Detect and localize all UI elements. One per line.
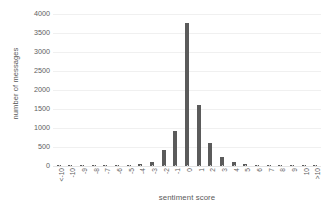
y-axis-tick-label: 500 [38, 143, 50, 150]
x-tick-slot: 2 [205, 167, 217, 193]
x-axis-tickmark [59, 165, 60, 167]
x-tick-slot: -8 [88, 167, 100, 193]
y-axis-tick-label: 1000 [34, 124, 50, 131]
bar[interactable] [173, 131, 177, 166]
bar-slot [228, 14, 240, 166]
bar-slot [135, 14, 147, 166]
x-tick-slot: -9 [76, 167, 88, 193]
x-tick-slot: 4 [228, 167, 240, 193]
bar[interactable] [162, 150, 166, 166]
x-tick-slot: >10 [309, 167, 321, 193]
bar-slot [158, 14, 170, 166]
bar-slot [170, 14, 182, 166]
bar-slot [123, 14, 135, 166]
bar-slot [88, 14, 100, 166]
x-tick-slot: -7 [100, 167, 112, 193]
y-axis-tick-label: 3000 [34, 48, 50, 55]
bar-slot [309, 14, 321, 166]
bar[interactable] [208, 143, 212, 166]
x-tick-slot: 10 [298, 167, 310, 193]
x-axis-tickmark [140, 165, 141, 167]
x-axis-tickmark [117, 165, 118, 167]
y-axis-tick-label: 1500 [34, 105, 50, 112]
x-tick-slot: 0 [181, 167, 193, 193]
x-tick-slot: -2 [158, 167, 170, 193]
bar-slot [240, 14, 252, 166]
bar-chart: number of messages 050010001500200025003… [0, 0, 327, 209]
x-axis-tickmark [105, 165, 106, 167]
y-axis-tick-label: 3500 [34, 29, 50, 36]
bar-slot [146, 14, 158, 166]
x-tick-slot: 8 [274, 167, 286, 193]
bar-slot [181, 14, 193, 166]
x-tick-slot: -6 [111, 167, 123, 193]
x-axis-tickmark [94, 165, 95, 167]
x-axis-tickmark [315, 165, 316, 167]
x-tick-slot: -3 [146, 167, 158, 193]
x-axis-tick-labels: <-10-10-9-8-7-6-5-4-3-2-1012345678910>10 [53, 167, 321, 193]
bar[interactable] [197, 105, 201, 166]
x-axis-tick-label: >10 [315, 168, 322, 179]
x-axis-tickmark [152, 165, 153, 167]
bar-slot [274, 14, 286, 166]
x-tick-slot: 5 [240, 167, 252, 193]
x-tick-slot: -4 [135, 167, 147, 193]
bar-slot [251, 14, 263, 166]
bar-slot [216, 14, 228, 166]
x-axis-title: sentiment score [53, 193, 321, 202]
y-axis-tick-label: 2000 [34, 86, 50, 93]
bar-slot [53, 14, 65, 166]
x-axis-tickmark [304, 165, 305, 167]
x-tick-slot: <-10 [53, 167, 65, 193]
x-tick-slot: 7 [263, 167, 275, 193]
x-tick-slot: -10 [65, 167, 77, 193]
bar-series [53, 14, 321, 166]
y-axis-tick-labels: 05001000150020002500300035004000 [18, 14, 50, 166]
x-tick-slot: -1 [170, 167, 182, 193]
y-axis-tick-label: 2500 [34, 67, 50, 74]
x-tick-slot: 3 [216, 167, 228, 193]
x-tick-slot: 9 [286, 167, 298, 193]
x-tick-slot: 1 [193, 167, 205, 193]
x-axis-tickmark [129, 165, 130, 167]
y-axis-tick-label: 0 [46, 162, 50, 169]
x-tick-slot: 6 [251, 167, 263, 193]
bar-slot [111, 14, 123, 166]
bar[interactable] [185, 23, 189, 166]
y-axis-tick-label: 4000 [34, 10, 50, 17]
x-axis-tickmark [164, 165, 165, 167]
bar-slot [76, 14, 88, 166]
x-axis-tickmark [175, 165, 176, 167]
x-axis-tickmark [82, 165, 83, 167]
x-tick-slot: -5 [123, 167, 135, 193]
bar-slot [193, 14, 205, 166]
bar-slot [298, 14, 310, 166]
plot-area [53, 14, 321, 166]
bar-slot [65, 14, 77, 166]
bar-slot [263, 14, 275, 166]
bar-slot [100, 14, 112, 166]
bar-slot [286, 14, 298, 166]
bar-slot [205, 14, 217, 166]
